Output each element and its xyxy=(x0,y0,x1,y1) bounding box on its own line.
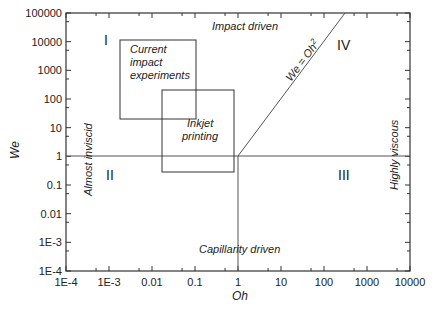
almost-inviscid-label: Almost inviscid xyxy=(82,122,94,197)
capillarity-driven-label: Capillarity driven xyxy=(199,243,280,255)
y-tick-label: 100 xyxy=(44,93,62,105)
x-tick-label: 0.01 xyxy=(141,276,162,288)
x-tick-label: 1000 xyxy=(355,276,379,288)
y-tick-label: 1 xyxy=(56,150,62,162)
y-tick-label: 1000 xyxy=(38,64,62,76)
y-tick-label: 1E-3 xyxy=(39,236,62,248)
x-tick-label: 10 xyxy=(275,276,287,288)
x-tick-label: 0.1 xyxy=(187,276,202,288)
we-equals-oh2-line xyxy=(238,13,345,156)
y-tick-label: 100000 xyxy=(25,7,62,19)
y-tick-label: 0.1 xyxy=(47,179,62,191)
y-tick-label: 1E-4 xyxy=(39,265,62,277)
x-tick-label: 100 xyxy=(315,276,333,288)
x-tick-label: 10000 xyxy=(395,276,426,288)
x-tick-label: 1 xyxy=(235,276,241,288)
y-tick-label: 10000 xyxy=(31,36,62,48)
region-I-label: I xyxy=(104,32,108,48)
inkjet-label-1: Inkjet xyxy=(187,117,214,129)
region-II-label: II xyxy=(106,167,114,183)
y-tick-label: 0.01 xyxy=(41,208,62,220)
y-axis-title: We xyxy=(8,141,22,159)
x-tick-label: 1E-4 xyxy=(54,276,77,288)
x-axis-title: Oh xyxy=(232,289,248,303)
current-impact-label-1: Current xyxy=(130,43,168,55)
impact-driven-label: Impact driven xyxy=(212,20,278,32)
current-impact-label-3: experiments xyxy=(130,69,190,81)
x-tick-label: 1E-3 xyxy=(97,276,120,288)
inkjet-label-2: printing xyxy=(181,130,219,142)
regime-map-chart: 1E-41E-30.010.1110100100010000 1E-41E-30… xyxy=(0,0,433,311)
current-impact-label-2: impact xyxy=(130,56,163,68)
x-tick-labels: 1E-41E-30.010.1110100100010000 xyxy=(54,276,425,288)
y-tick-labels: 1E-41E-30.010.1110100100010000100000 xyxy=(25,7,62,277)
y-tick-label: 10 xyxy=(50,122,62,134)
highly-viscous-label: Highly viscous xyxy=(388,119,400,190)
we-oh2-line-label: We = Oh2 xyxy=(282,37,322,84)
region-III-label: III xyxy=(338,167,350,183)
region-IV-label: IV xyxy=(337,37,351,53)
